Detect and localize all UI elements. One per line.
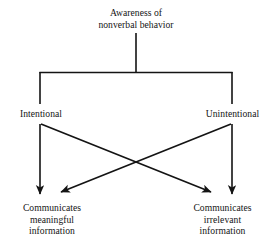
flowchart-diagram: Awareness of nonverbal behavior Intentio… [0, 0, 275, 246]
edge-unintentional-to-meaningful [61, 124, 231, 192]
node-awareness-of-nonverbal-behavior: Awareness of nonverbal behavior [73, 7, 199, 30]
node-unintentional: Unintentional [190, 108, 275, 120]
node-communicates-meaningful-information: Communicates meaningful information [0, 202, 104, 237]
edge-intentional-to-irrelevant [41, 124, 211, 192]
node-intentional: Intentional [5, 108, 77, 120]
node-communicates-irrelevant-information: Communicates irrelevant information [170, 202, 275, 237]
